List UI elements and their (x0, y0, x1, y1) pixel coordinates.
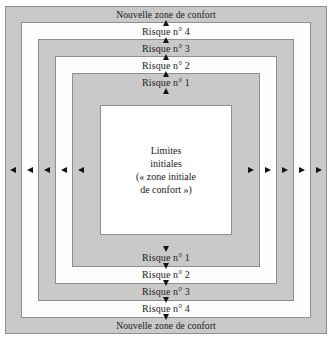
core-initial-comfort-zone (100, 105, 232, 235)
arrow-down-icon (163, 314, 169, 320)
arrow-down-icon (163, 280, 169, 286)
arrow-up-icon (163, 88, 169, 94)
arrow-down-icon (163, 246, 169, 252)
arrow-left-icon (78, 167, 84, 173)
arrow-down-icon (163, 263, 169, 269)
arrow-right-icon (316, 167, 322, 173)
arrow-left-icon (10, 167, 16, 173)
arrow-left-icon (61, 167, 67, 173)
arrow-right-icon (299, 167, 305, 173)
arrow-right-icon (248, 167, 254, 173)
arrow-right-icon (282, 167, 288, 173)
arrow-up-icon (163, 54, 169, 60)
concentric-risk-diagram: Limites initiales (« zone initiale de co… (5, 6, 327, 334)
arrow-down-icon (163, 297, 169, 303)
arrow-left-icon (44, 167, 50, 173)
arrow-right-icon (265, 167, 271, 173)
arrow-up-icon (163, 71, 169, 77)
arrow-up-icon (163, 20, 169, 26)
arrow-left-icon (27, 167, 33, 173)
arrow-up-icon (163, 37, 169, 43)
